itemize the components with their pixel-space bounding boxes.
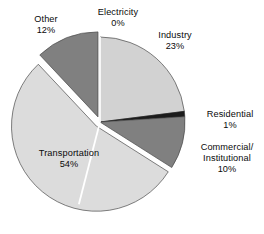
pie-label-industry-name: Industry (143, 30, 207, 41)
pie-label-electricity-value: 0% (82, 18, 154, 29)
pie-label-residential-value: 1% (197, 120, 263, 131)
pie-chart: Other 12% Electricity 0% Industry 23% Re… (0, 0, 264, 234)
pie-label-electricity: Electricity 0% (82, 7, 154, 29)
pie-label-commercial-name2: Institutional (190, 153, 264, 164)
pie-label-industry: Industry 23% (143, 30, 207, 52)
pie-label-commercial-value: 10% (190, 164, 264, 175)
pie-label-other-value: 12% (17, 25, 75, 36)
pie-label-transportation-name: Transportation (22, 148, 116, 159)
pie-label-other-name: Other (17, 14, 75, 25)
pie-label-residential-name: Residential (197, 109, 263, 120)
pie-label-transportation: Transportation 54% (22, 148, 116, 170)
pie-label-other: Other 12% (17, 14, 75, 36)
pie-label-transportation-value: 54% (22, 159, 116, 170)
pie-label-commercial-name: Commercial/ (190, 142, 264, 153)
pie-label-industry-value: 23% (143, 41, 207, 52)
pie-label-residential: Residential 1% (197, 109, 263, 131)
pie-label-electricity-name: Electricity (82, 7, 154, 18)
pie-label-commercial-institutional: Commercial/ Institutional 10% (190, 142, 264, 176)
